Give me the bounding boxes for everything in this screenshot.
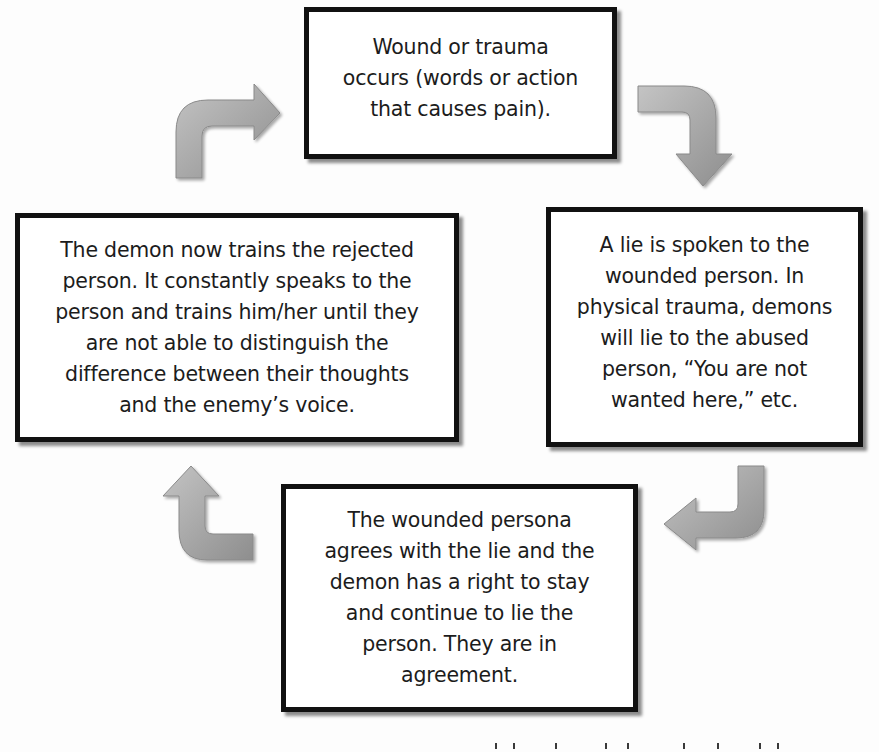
text-line: are not able to distinguish the: [55, 328, 418, 359]
text-line: person and trains him/her until they: [55, 297, 418, 328]
text-line: person. It constantly speaks to the: [55, 266, 418, 297]
text-line: and the enemy’s voice.: [55, 390, 418, 421]
curved-arrow-up-left-icon: [153, 464, 257, 564]
text-line: agreement.: [325, 660, 595, 691]
text-line: Wound or trauma: [343, 32, 578, 63]
text-line: person, “You are not: [577, 354, 832, 385]
text-line: and continue to lie the: [325, 598, 595, 629]
text-line: will lie to the abused: [577, 323, 832, 354]
text-line: The demon now trains the rejected: [55, 235, 418, 266]
node-wound-occurs: Wound or trauma occurs (words or action …: [304, 7, 617, 159]
text-line: The wounded persona: [325, 505, 595, 536]
text-line: occurs (words or action: [343, 63, 578, 94]
cycle-diagram: Wound or trauma occurs (words or action …: [0, 0, 879, 752]
text-line: agrees with the lie and the: [325, 536, 595, 567]
text-line: wounded person. In: [577, 261, 832, 292]
text-line: wanted here,” etc.: [577, 385, 832, 416]
node-lie-spoken: A lie is spoken to the wounded person. I…: [546, 207, 863, 447]
node-text: Wound or trauma occurs (words or action …: [343, 32, 578, 125]
text-line: that causes pain).: [343, 94, 578, 125]
node-agreement: The wounded persona agrees with the lie …: [281, 484, 638, 712]
text-line: physical trauma, demons: [577, 292, 832, 323]
curved-arrow-up-right-icon: [172, 82, 284, 182]
text-line: difference between their thoughts: [55, 359, 418, 390]
curved-arrow-down-left-icon: [660, 464, 768, 552]
text-line: demon has a right to stay: [325, 567, 595, 598]
cutoff-text-fragment: [455, 740, 879, 752]
curved-arrow-down-right-icon: [636, 82, 736, 190]
text-line: A lie is spoken to the: [577, 230, 832, 261]
node-text: The demon now trains the rejected person…: [55, 235, 418, 421]
node-text: The wounded persona agrees with the lie …: [325, 505, 595, 691]
text-line: person. They are in: [325, 629, 595, 660]
node-text: A lie is spoken to the wounded person. I…: [577, 230, 832, 416]
node-demon-trains: The demon now trains the rejected person…: [15, 213, 459, 442]
